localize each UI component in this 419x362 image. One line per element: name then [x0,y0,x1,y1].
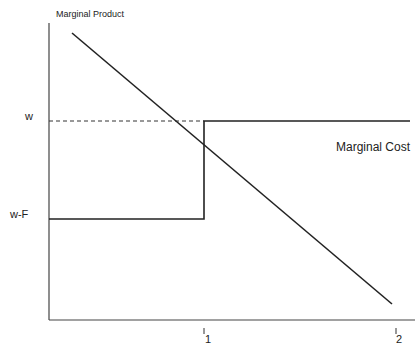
y-tick-w-minus-f: w-F [10,208,28,220]
diagram-canvas [0,0,419,362]
marginal-cost-curve [49,121,410,219]
y-tick-w: w [25,110,33,122]
x-tick-label-1: 1 [205,333,211,345]
marginal-cost-label: Marginal Cost [336,140,410,154]
y-axis-label: Marginal Product [56,9,124,19]
x-tick-label-2: 2 [396,333,402,345]
marginal-product-curve [72,33,392,304]
